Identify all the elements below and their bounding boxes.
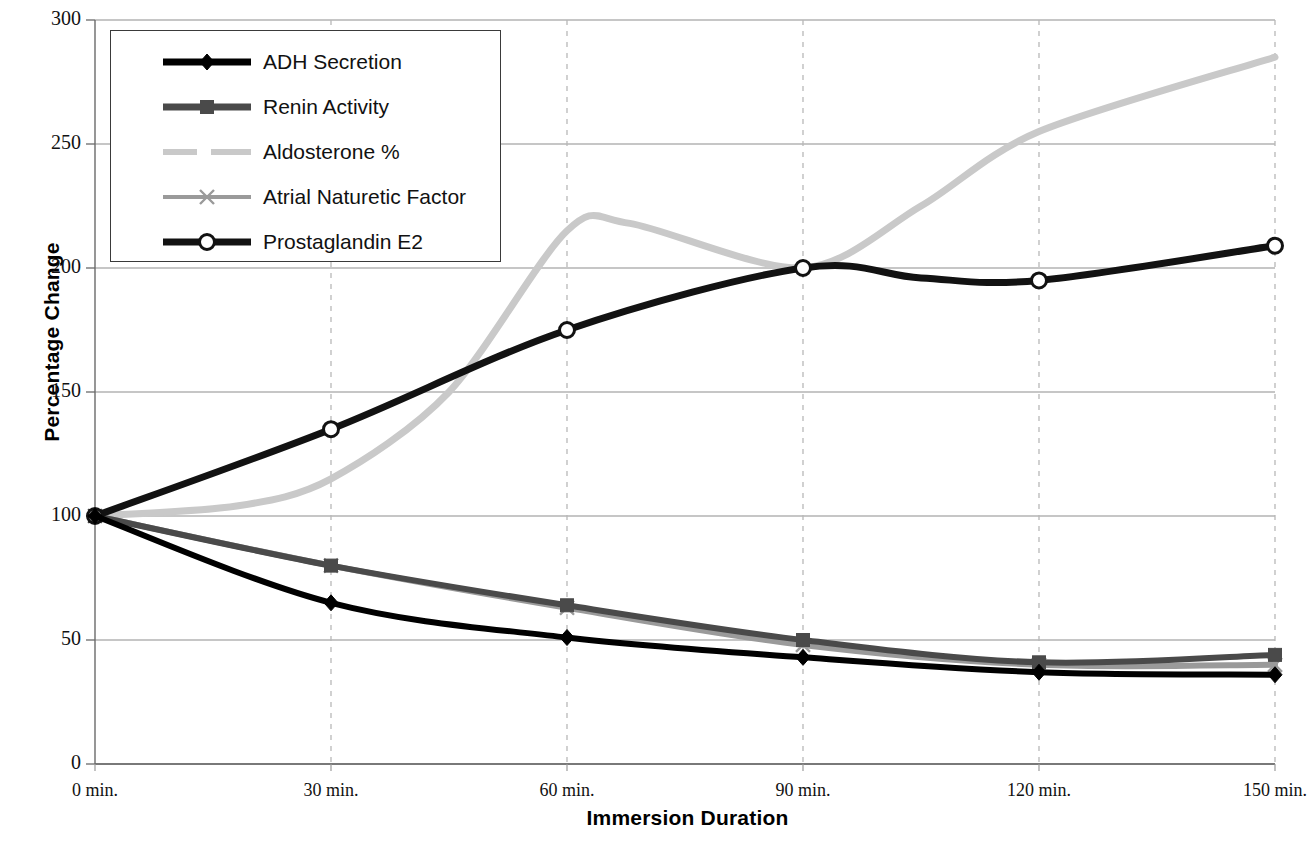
data-point-marker	[1268, 238, 1283, 253]
x-tick-label: 120 min.	[979, 780, 1099, 801]
x-tick-label: 150 min.	[1215, 780, 1311, 801]
data-point-marker	[560, 323, 575, 338]
data-point-marker	[324, 422, 339, 437]
circle-marker-icon	[159, 227, 259, 257]
legend-item-label: ADH Secretion	[263, 50, 402, 74]
y-tick-label: 0	[11, 751, 81, 774]
data-point-marker	[201, 101, 214, 114]
data-point-marker	[797, 634, 810, 647]
legend-item: Atrial Naturetic Factor	[111, 174, 502, 220]
legend-item-label: Prostaglandin E2	[263, 230, 423, 254]
legend-item-label: Aldosterone %	[263, 140, 400, 164]
legend-item: Prostaglandin E2	[111, 219, 502, 265]
series-adh-secretion	[88, 508, 1282, 683]
data-point-marker	[796, 261, 811, 276]
y-tick-label: 300	[11, 7, 81, 30]
x-marker-icon	[159, 182, 259, 212]
legend-item-label: Atrial Naturetic Factor	[263, 185, 466, 209]
series-renin-activity	[89, 510, 1282, 669]
legend-item: Aldosterone %	[111, 129, 502, 175]
data-point-marker	[561, 599, 574, 612]
series-line	[95, 516, 1275, 675]
data-point-marker	[560, 630, 574, 646]
y-tick-label: 250	[11, 131, 81, 154]
x-tick-label: 60 min.	[507, 780, 627, 801]
data-point-marker	[200, 235, 215, 250]
y-tick-label: 100	[11, 503, 81, 526]
diamond-marker-icon	[159, 47, 259, 77]
data-point-marker	[796, 649, 810, 665]
x-axis-title: Immersion Duration	[95, 806, 1280, 830]
x-tick-label: 30 min.	[271, 780, 391, 801]
dashed-line-icon	[159, 137, 259, 167]
series-prostaglandin-e2	[88, 238, 1283, 523]
data-point-marker	[324, 595, 338, 611]
legend-item-label: Renin Activity	[263, 95, 389, 119]
x-tick-label: 0 min.	[35, 780, 155, 801]
y-tick-label: 200	[11, 255, 81, 278]
series-line	[95, 246, 1275, 516]
data-point-marker	[1269, 648, 1282, 661]
square-marker-icon	[159, 92, 259, 122]
y-tick-label: 150	[11, 379, 81, 402]
series-line	[95, 516, 1275, 666]
data-point-marker	[325, 559, 338, 572]
series-line	[95, 516, 1275, 663]
data-point-marker	[200, 54, 214, 70]
chart-legend: ADH SecretionRenin ActivityAldosterone %…	[110, 30, 501, 262]
data-point-marker	[1032, 273, 1047, 288]
x-tick-label: 90 min.	[743, 780, 863, 801]
legend-item: ADH Secretion	[111, 39, 502, 85]
legend-item: Renin Activity	[111, 84, 502, 130]
y-tick-label: 50	[11, 627, 81, 650]
